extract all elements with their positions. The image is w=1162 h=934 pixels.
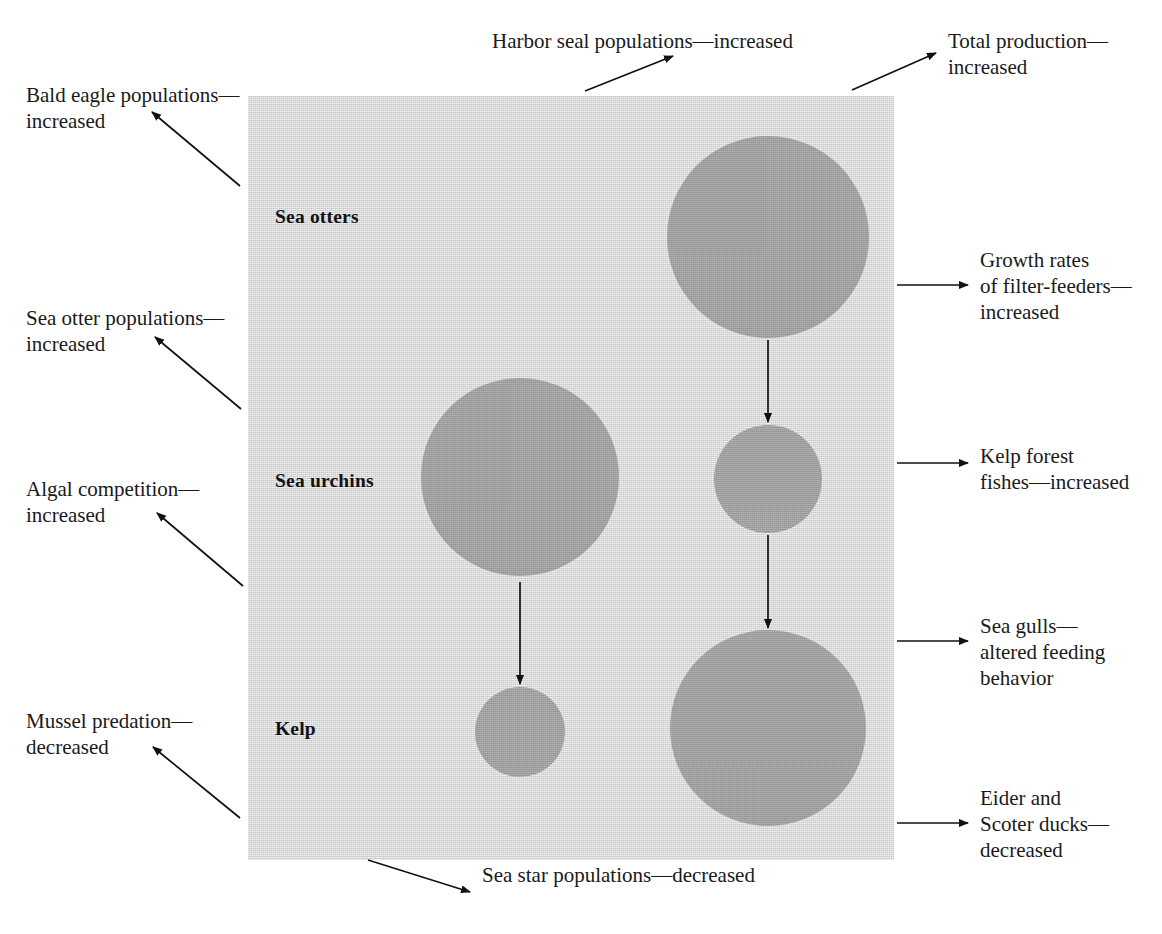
blob-urchin-blob-left [421, 378, 619, 576]
inner-label-kelp: Kelp [275, 718, 316, 740]
annotation-total-production: Total production— increased [948, 28, 1108, 80]
annotation-sea-otter-populations: Sea otter populations— increased [26, 305, 224, 357]
blob-otter-blob-right [667, 136, 869, 338]
annotation-filter-feeders: Growth rates of filter-feeders— increase… [980, 247, 1132, 325]
annotation-algal-competition: Algal competition— increased [26, 476, 199, 528]
annotation-kelp-forest-fishes: Kelp forest fishes—increased [980, 443, 1129, 495]
inner-label-sea-otters: Sea otters [275, 206, 359, 228]
arrow-total-production [852, 53, 936, 90]
blob-urchin-blob-right [714, 425, 822, 533]
diagram-canvas: Sea otters Sea urchins Kelp Harbor seal … [0, 0, 1162, 934]
arrow-harbor-seal [585, 56, 673, 91]
annotation-mussel-predation: Mussel predation— decreased [26, 708, 192, 760]
blob-kelp-blob-right [670, 630, 866, 826]
annotation-sea-star: Sea star populations—decreased [482, 862, 755, 888]
annotation-bald-eagle: Bald eagle populations— increased [26, 82, 239, 134]
inner-label-sea-urchins: Sea urchins [275, 470, 374, 492]
annotation-eider-scoter-ducks: Eider and Scoter ducks— decreased [980, 785, 1109, 863]
annotation-harbor-seal: Harbor seal populations—increased [492, 28, 793, 54]
arrow-sea-star [368, 860, 470, 892]
annotation-sea-gulls: Sea gulls— altered feeding behavior [980, 613, 1105, 691]
blob-kelp-blob-left [475, 687, 565, 777]
